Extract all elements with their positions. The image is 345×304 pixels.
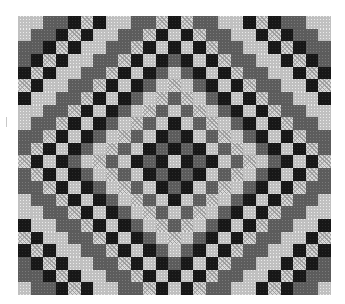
quilt-square [318, 16, 331, 29]
quilt-square [306, 257, 319, 270]
quilt-square [81, 206, 94, 219]
quilt-square [206, 143, 219, 156]
quilt-square [43, 232, 56, 245]
quilt-square [131, 54, 144, 67]
quilt-square [181, 130, 194, 143]
quilt-square [106, 143, 119, 156]
quilt-square [68, 29, 81, 42]
quilt-square [18, 168, 31, 181]
quilt-square [193, 257, 206, 270]
quilt-square [306, 194, 319, 207]
quilt-square [193, 79, 206, 92]
quilt-square [193, 16, 206, 29]
quilt-square [118, 105, 131, 118]
quilt-square [156, 92, 169, 105]
quilt-square [56, 194, 69, 207]
quilt-square [93, 282, 106, 295]
quilt-square [206, 244, 219, 257]
quilt-square [106, 29, 119, 42]
quilt-square [306, 105, 319, 118]
quilt-square [206, 130, 219, 143]
quilt-square [243, 29, 256, 42]
quilt-square [143, 232, 156, 245]
quilt-square [18, 244, 31, 257]
quilt-square [318, 29, 331, 42]
quilt-square [206, 155, 219, 168]
quilt-square [306, 219, 319, 232]
quilt-square [18, 232, 31, 245]
quilt-square [231, 130, 244, 143]
quilt-square [218, 16, 231, 29]
quilt-square [18, 92, 31, 105]
quilt-square [168, 194, 181, 207]
quilt-square [43, 105, 56, 118]
quilt-square [143, 206, 156, 219]
quilt-square [218, 257, 231, 270]
quilt-square [281, 282, 294, 295]
quilt-square [43, 130, 56, 143]
quilt-square [68, 143, 81, 156]
quilt-square [306, 282, 319, 295]
quilt-square [306, 232, 319, 245]
quilt-square [93, 105, 106, 118]
quilt-square [231, 155, 244, 168]
quilt-square [256, 92, 269, 105]
quilt-square [306, 117, 319, 130]
quilt-square [56, 143, 69, 156]
quilt-square [168, 155, 181, 168]
quilt-square [56, 16, 69, 29]
quilt-square [93, 168, 106, 181]
quilt-square [218, 181, 231, 194]
quilt-square [193, 130, 206, 143]
quilt-square [218, 41, 231, 54]
quilt-square [206, 168, 219, 181]
quilt-square [281, 29, 294, 42]
quilt-square [268, 29, 281, 42]
quilt-square [81, 41, 94, 54]
quilt-square [231, 143, 244, 156]
quilt-square [318, 168, 331, 181]
quilt-square [281, 168, 294, 181]
quilt-square [231, 16, 244, 29]
quilt-square [231, 206, 244, 219]
quilt-square [256, 117, 269, 130]
quilt-square [81, 105, 94, 118]
quilt-square [168, 16, 181, 29]
quilt-square [118, 117, 131, 130]
quilt-square [43, 282, 56, 295]
quilt-square [218, 79, 231, 92]
quilt-square [93, 194, 106, 207]
quilt-square [118, 29, 131, 42]
quilt-square [68, 270, 81, 283]
quilt-square [118, 219, 131, 232]
quilt-square [106, 41, 119, 54]
quilt-square [193, 29, 206, 42]
quilt-square [68, 130, 81, 143]
quilt-square [43, 155, 56, 168]
quilt-square [31, 206, 44, 219]
quilt-square [243, 16, 256, 29]
quilt-square [68, 206, 81, 219]
quilt-square [306, 270, 319, 283]
quilt-square [281, 54, 294, 67]
quilt-square [181, 16, 194, 29]
quilt-square [206, 181, 219, 194]
quilt-square [293, 117, 306, 130]
quilt-square [18, 41, 31, 54]
quilt-square [293, 181, 306, 194]
quilt-square [143, 244, 156, 257]
quilt-square [268, 16, 281, 29]
quilt-square [168, 54, 181, 67]
quilt-square [68, 168, 81, 181]
quilt-square [256, 54, 269, 67]
quilt-square [156, 270, 169, 283]
quilt-square [143, 270, 156, 283]
quilt-square [206, 232, 219, 245]
quilt-square [18, 206, 31, 219]
quilt-square [193, 54, 206, 67]
quilt-square [156, 219, 169, 232]
quilt-square [218, 168, 231, 181]
quilt-square [268, 130, 281, 143]
quilt-square [81, 168, 94, 181]
quilt-square [18, 270, 31, 283]
